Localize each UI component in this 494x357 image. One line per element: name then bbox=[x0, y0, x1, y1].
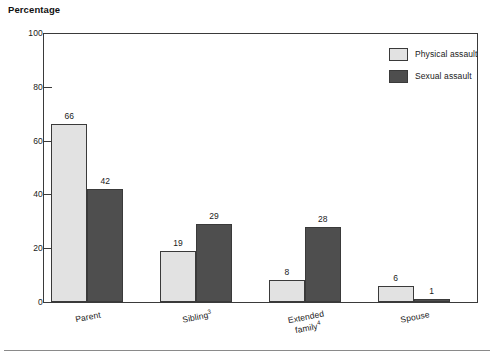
bar-value-label: 29 bbox=[209, 211, 219, 221]
bar-sibling-physical-assault bbox=[160, 251, 196, 302]
bar-value-label: 28 bbox=[318, 214, 328, 224]
legend-swatch-icon-sexual-assault bbox=[389, 70, 408, 83]
bar-value-label: 66 bbox=[64, 111, 74, 121]
legend: Physical assault Sexual assault bbox=[389, 45, 478, 89]
bar-spouse-sexual-assault bbox=[414, 299, 450, 302]
bar-spouse-physical-assault bbox=[378, 286, 414, 302]
legend-swatch-icon-physical-assault bbox=[389, 48, 408, 61]
legend-label-physical-assault: Physical assault bbox=[415, 49, 478, 59]
bottom-divider bbox=[4, 350, 490, 351]
legend-item-physical-assault[interactable]: Physical assault bbox=[389, 45, 478, 63]
legend-label-sexual-assault: Sexual assault bbox=[415, 71, 472, 81]
bar-extended-family-sexual-assault bbox=[305, 227, 341, 302]
bar-value-label: 42 bbox=[100, 176, 110, 186]
bar-value-label: 19 bbox=[173, 238, 183, 248]
legend-item-sexual-assault[interactable]: Sexual assault bbox=[389, 67, 478, 85]
bar-value-label: 6 bbox=[393, 273, 398, 283]
bar-sibling-sexual-assault bbox=[196, 224, 232, 302]
x-axis-label-parent: Parent bbox=[75, 310, 102, 326]
bar-parent-physical-assault bbox=[51, 124, 87, 302]
bar-value-label: 1 bbox=[429, 286, 434, 296]
x-axis-label-extended-family: Extendedfamily4 bbox=[287, 308, 327, 337]
bar-parent-sexual-assault bbox=[87, 189, 123, 302]
bar-extended-family-physical-assault bbox=[269, 280, 305, 302]
x-axis-label-sibling: Sibling3 bbox=[182, 309, 213, 325]
bar-value-label: 8 bbox=[284, 267, 289, 277]
x-axis-label-spouse: Spouse bbox=[399, 309, 430, 325]
